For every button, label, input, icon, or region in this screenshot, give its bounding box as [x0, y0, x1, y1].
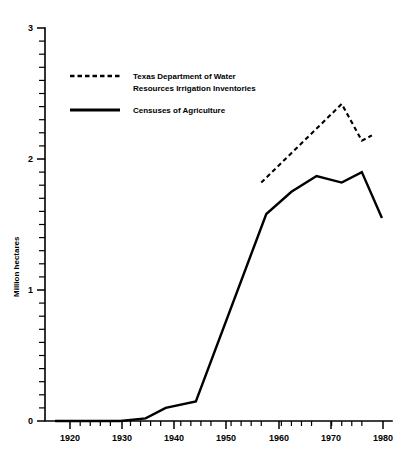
line-chart: 3 2 1 0 1920 1930 1940 1950 1960 1970 19… [0, 0, 417, 462]
legend-label-twdr-line2: Resources Irrigation Inventories [133, 84, 256, 93]
x-tick-label-1940: 1940 [164, 433, 184, 443]
y-axis-minor-ticks [39, 41, 45, 408]
chart-legend: Texas Department of Water Resources Irri… [70, 72, 256, 115]
series-line-censuses-of-agriculture [55, 172, 382, 421]
y-tick-label-1: 1 [28, 285, 33, 295]
x-tick-label-1970: 1970 [321, 433, 341, 443]
x-tick-label-1950: 1950 [216, 433, 236, 443]
y-axis-title: Million hectares [12, 236, 21, 297]
y-tick-label-2: 2 [28, 154, 33, 164]
x-tick-label-1980: 1980 [373, 433, 393, 443]
chart-figure: 3 2 1 0 1920 1930 1940 1950 1960 1970 19… [0, 0, 417, 462]
series-line-twdr-irrigation-inventories [261, 104, 372, 183]
y-tick-label-0: 0 [28, 416, 33, 426]
x-tick-label-1920: 1920 [60, 433, 80, 443]
x-tick-label-1930: 1930 [112, 433, 132, 443]
y-tick-label-3: 3 [28, 23, 33, 33]
legend-label-censuses: Censuses of Agriculture [133, 106, 226, 115]
legend-label-twdr-line1: Texas Department of Water [133, 72, 236, 81]
x-tick-label-1960: 1960 [269, 433, 289, 443]
